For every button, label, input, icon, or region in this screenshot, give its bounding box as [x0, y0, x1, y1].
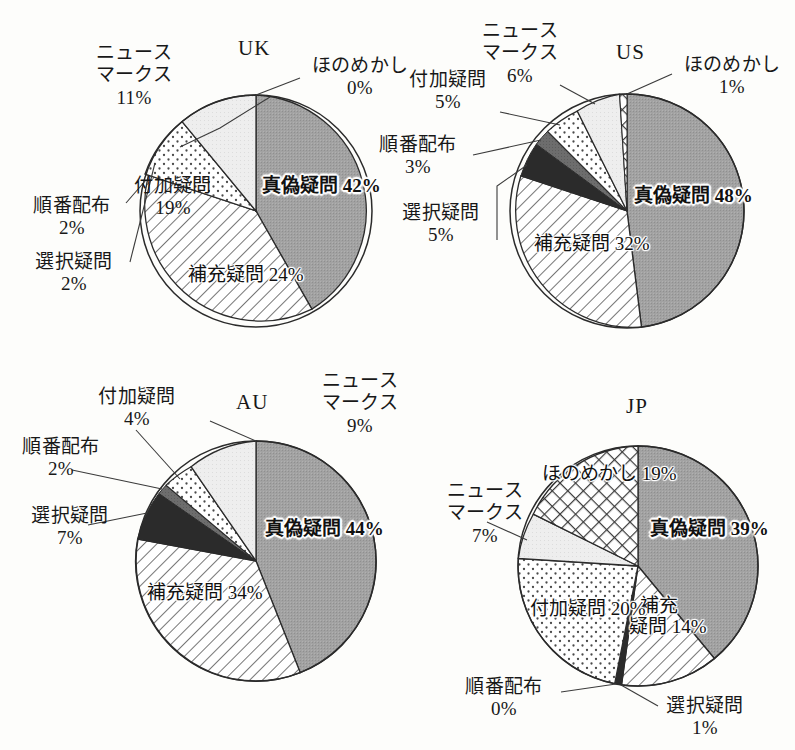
slice-label-uk-hojuu-pct: 24%	[269, 264, 304, 285]
label-jp-news-marks-line2: マークス	[447, 502, 523, 523]
label-uk-fuka-pct: 19%	[121, 197, 225, 219]
label-uk-news-marks-pct: 11%	[74, 87, 194, 109]
label-au-fuka-pct: 4%	[85, 408, 189, 430]
slice-label-au-hojuu-pct: 34%	[228, 582, 263, 603]
label-au-news-marks-pct: 9%	[300, 415, 420, 437]
slice-label-us-hojuu-pct: 32%	[615, 233, 650, 254]
leader-uk-honome	[256, 78, 300, 95]
leader-jp-junban	[561, 684, 616, 692]
label-au-junban: 順番配布 2%	[9, 436, 113, 480]
slice-label-jp-honomekashi-name: ほのめかし	[542, 463, 637, 484]
leader-us-fuka	[500, 112, 560, 125]
slice-label-us-shingi: 真偽疑問 48%	[634, 185, 738, 206]
slice-label-jp-honomekashi: ほのめかし 19%	[542, 463, 666, 484]
slice-label-uk-shingi-name: 真偽疑問	[262, 175, 338, 196]
leader-us-news	[560, 85, 595, 104]
slice-label-us-shingi-name: 真偽疑問	[634, 185, 710, 206]
slice-label-jp-fuka-name: 付加疑問	[530, 598, 606, 619]
label-uk-fuka: 付加疑問 19%	[121, 175, 225, 219]
label-uk-sentaku-pct: 2%	[22, 273, 126, 295]
pie-au	[72, 421, 376, 681]
label-jp-news-marks-pct: 7%	[425, 525, 545, 547]
label-uk-sentaku-name: 選択疑問	[35, 251, 112, 272]
label-au-news-marks: ニュース マークス 9%	[300, 370, 420, 437]
slice-label-uk-shingi: 真偽疑問 42%	[262, 175, 366, 196]
label-us-junban: 順番配布 3%	[366, 134, 470, 178]
slice-label-jp-hojuu-line2: 疑問	[629, 616, 667, 637]
slice-label-au-hojuu-name: 補充疑問	[147, 582, 223, 603]
label-us-junban-pct: 3%	[366, 156, 470, 178]
chart-title-jp: JP	[626, 394, 648, 419]
label-au-fuka: 付加疑問 4%	[85, 386, 189, 430]
label-au-junban-pct: 2%	[9, 458, 113, 480]
label-us-junban-name: 順番配布	[379, 134, 456, 155]
label-uk-junban-pct: 2%	[20, 217, 124, 239]
slice-label-au-hojuu: 補充疑問 34%	[147, 582, 251, 603]
slice-label-jp-honomekashi-pct: 19%	[642, 463, 677, 484]
label-us-honomekashi-name: ほのめかし	[684, 54, 781, 75]
label-au-news-marks-line2: マークス	[322, 392, 398, 413]
label-au-sentaku: 選択疑問 7%	[18, 505, 122, 549]
label-us-fuka: 付加疑問 5%	[396, 69, 500, 113]
slice-label-us-hojuu-name: 補充疑問	[534, 233, 610, 254]
slice-label-jp-fuka-pct: 20%	[611, 598, 646, 619]
label-uk-news-marks-line2: マークス	[96, 64, 172, 85]
label-us-sentaku: 選択疑問 5%	[389, 202, 493, 246]
label-jp-junban-name: 順番配布	[465, 676, 542, 697]
label-uk-fuka-name: 付加疑問	[134, 175, 211, 196]
label-jp-sentaku-name: 選択疑問	[666, 695, 743, 716]
label-us-news-marks-line2: マークス	[482, 42, 558, 63]
label-jp-news-marks-line1: ニュース	[447, 480, 523, 501]
slice-label-jp-shingi-pct: 39%	[731, 518, 769, 539]
label-au-fuka-name: 付加疑問	[98, 386, 175, 407]
leader-us-honome	[627, 74, 672, 94]
slice-label-uk-shingi-pct: 42%	[343, 175, 381, 196]
slice-label-au-shingi-pct: 44%	[346, 518, 384, 539]
slice-label-jp-fuka: 付加疑問 20%	[530, 598, 634, 619]
label-jp-sentaku: 選択疑問 1%	[653, 695, 757, 739]
slice-label-jp-shingi-name: 真偽疑問	[650, 518, 726, 539]
label-uk-junban: 順番配布 2%	[20, 195, 124, 239]
chart-title-uk: UK	[238, 36, 270, 61]
slice-label-us-shingi-pct: 48%	[715, 185, 753, 206]
label-jp-sentaku-pct: 1%	[653, 717, 757, 739]
slice-label-au-shingi-name: 真偽疑問	[265, 518, 341, 539]
label-uk-news-marks-line1: ニュース	[96, 42, 172, 63]
label-au-sentaku-name: 選択疑問	[31, 505, 108, 526]
label-jp-junban: 順番配布 0%	[452, 676, 556, 720]
label-us-sentaku-pct: 5%	[389, 224, 493, 246]
chart-title-au: AU	[236, 390, 268, 415]
label-au-sentaku-pct: 7%	[18, 527, 122, 549]
figure-canvas: UK ニュース マークス 11% ほのめかし 0% 付加疑問 19% 順番配布 …	[0, 0, 795, 750]
label-us-sentaku-name: 選択疑問	[402, 202, 479, 223]
label-us-news-marks-line1: ニュース	[482, 20, 558, 41]
label-au-news-marks-line1: ニュース	[322, 370, 398, 391]
slice-label-uk-hojuu-name: 補充疑問	[188, 264, 264, 285]
label-au-junban-name: 順番配布	[22, 436, 99, 457]
label-uk-junban-name: 順番配布	[33, 195, 110, 216]
label-uk-honomekashi-name: ほのめかし	[312, 55, 409, 76]
leader-au-news	[210, 421, 256, 441]
label-jp-junban-pct: 0%	[452, 698, 556, 720]
label-us-honomekashi: ほのめかし 1%	[672, 54, 792, 98]
slice-label-jp-shingi: 真偽疑問 39%	[650, 518, 754, 539]
label-us-fuka-pct: 5%	[396, 91, 500, 113]
label-us-honomekashi-pct: 1%	[672, 76, 792, 98]
chart-title-us: US	[616, 40, 645, 65]
label-jp-news-marks: ニュース マークス 7%	[425, 480, 545, 547]
label-us-fuka-name: 付加疑問	[409, 69, 486, 90]
slice-label-au-shingi: 真偽疑問 44%	[265, 518, 369, 539]
label-uk-sentaku: 選択疑問 2%	[22, 251, 126, 295]
label-uk-news-marks: ニュース マークス 11%	[74, 42, 194, 109]
slice-label-jp-hojuu-pct: 14%	[672, 616, 707, 637]
leader-au-fuka	[136, 430, 180, 479]
slice-label-uk-hojuu: 補充疑問 24%	[188, 264, 292, 285]
slice-label-us-hojuu: 補充疑問 32%	[534, 233, 638, 254]
